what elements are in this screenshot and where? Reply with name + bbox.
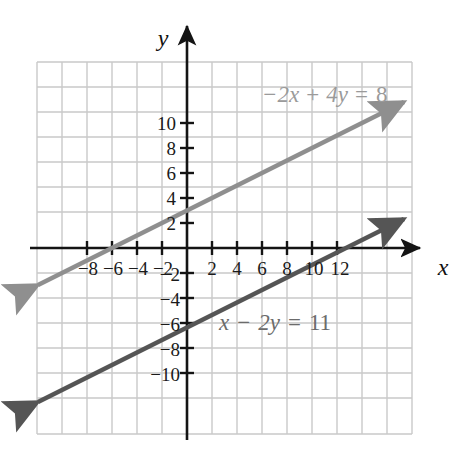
y-tick-label: −4: [160, 289, 181, 310]
y-tick-label: 2: [167, 213, 177, 234]
x-tick-label: 8: [282, 258, 292, 279]
y-tick-label: −10: [150, 364, 180, 385]
eq2-rhs: 11: [309, 310, 331, 335]
y-tick-label: 10: [157, 113, 176, 134]
eq2-operator: −: [237, 310, 250, 335]
eq1-rhs: 8: [376, 82, 388, 107]
y-axis-label: y: [156, 25, 169, 51]
equation-label-line-1: −2x+4y=8: [262, 82, 387, 107]
x-axis-label: x: [437, 254, 449, 280]
y-tick-label: 6: [167, 163, 177, 184]
x-tick-label: 4: [232, 258, 242, 279]
eq2-term1: x: [218, 310, 230, 335]
y-tick-label: 4: [167, 188, 177, 209]
x-tick-label: 6: [257, 258, 267, 279]
coordinate-plane-svg: −8 −6 −4 −2 2 4 6 8 10 12 10 8 6 4 2 −2 …: [0, 0, 472, 465]
x-tick-label: 12: [331, 258, 350, 279]
x-tick-label: −8: [78, 258, 98, 279]
x-tick-label: 2: [207, 258, 217, 279]
graph-figure: −8 −6 −4 −2 2 4 6 8 10 12 10 8 6 4 2 −2 …: [0, 0, 472, 465]
eq1-equals: =: [355, 82, 368, 107]
y-tick-label: −6: [160, 314, 180, 335]
y-tick-label: −2: [160, 264, 180, 285]
x-tick-label: 10: [305, 258, 324, 279]
x-tick-labels: −8 −6 −4 −2 2 4 6 8 10 12: [78, 258, 350, 279]
svg-text:−2x+4y=8: −2x+4y=8: [262, 82, 387, 107]
x-tick-label: −4: [128, 258, 149, 279]
eq2-term2: 2y: [258, 310, 281, 335]
eq1-operator: +: [306, 82, 319, 107]
eq1-term1: −2x: [262, 82, 300, 107]
x-tick-label: −6: [103, 258, 123, 279]
y-tick-label: 8: [167, 138, 177, 159]
eq1-term2: 4y: [326, 82, 349, 107]
eq2-equals: =: [288, 310, 301, 335]
y-tick-label: −8: [160, 339, 180, 360]
